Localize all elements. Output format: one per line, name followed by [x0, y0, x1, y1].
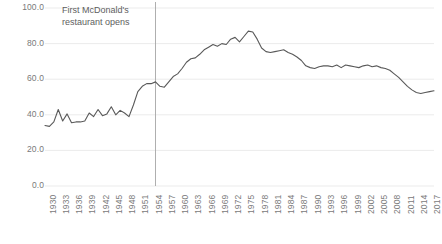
x-axis-tick-label: 2002 [367, 195, 376, 214]
x-axis-tick-label: 1981 [274, 195, 283, 214]
x-axis-tick-label: 1993 [327, 195, 336, 214]
x-axis-tick-label: 1999 [354, 195, 363, 214]
x-axis-tick-label: 1963 [194, 195, 203, 214]
x-axis-tick-label: 1975 [247, 195, 256, 214]
x-axis-tick-label: 1939 [88, 195, 97, 214]
x-axis-tick-label: 1978 [261, 195, 270, 214]
x-axis-tick-label: 1990 [314, 195, 323, 214]
x-axis-tick-label: 2014 [420, 195, 429, 214]
x-axis-tick-label: 2011 [407, 195, 416, 214]
x-axis-tick-label: 1987 [300, 195, 309, 214]
x-axis-tick-label: 1972 [234, 195, 243, 214]
x-axis-tick-label: 1936 [75, 195, 84, 214]
x-axis-tick-label: 2005 [380, 195, 389, 214]
x-axis-tick-label: 1930 [49, 195, 58, 214]
x-axis-tick-label: 2017 [433, 195, 442, 214]
x-axis-tick-label: 1948 [128, 195, 137, 214]
x-axis-tick-label: 1969 [221, 195, 230, 214]
x-axis-tick-label: 1945 [115, 195, 124, 214]
x-axis-tick-label: 1957 [168, 195, 177, 214]
x-axis-tick-label: 1951 [141, 195, 150, 214]
annotation-line-1: First McDonald's [62, 4, 146, 16]
x-axis-tick-label: 1996 [340, 195, 349, 214]
annotation-line-2: restaurant opens [62, 16, 146, 28]
annotation-label-mcdonalds: First McDonald's restaurant opens [62, 4, 146, 28]
x-axis-tick-label: 1954 [155, 195, 164, 214]
x-axis-tick-label: 1966 [208, 195, 217, 214]
x-axis-tick-label: 1933 [62, 195, 71, 214]
x-axis-tick-label: 1942 [102, 195, 111, 214]
x-axis-tick-label: 1984 [287, 195, 296, 214]
x-axis-tick-label: 2008 [393, 195, 402, 214]
x-axis-tick-label: 1960 [181, 195, 190, 214]
